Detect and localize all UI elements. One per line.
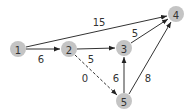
svg-text:1: 1 [15, 45, 21, 56]
weight-5-3: 6 [113, 73, 119, 84]
weight-1-2: 6 [38, 54, 44, 65]
node-1: 1 [10, 41, 26, 57]
node-3: 3 [116, 40, 132, 56]
edge-2-3 [77, 48, 115, 49]
weight-2-5: 0 [82, 73, 88, 84]
weight-2-3: 5 [88, 54, 94, 65]
svg-text:4: 4 [173, 10, 179, 21]
svg-text:2: 2 [66, 45, 72, 56]
svg-text:3: 3 [121, 44, 127, 55]
directed-graph: 6 15 5 0 5 6 8 1 2 3 4 5 [0, 0, 190, 110]
node-2: 2 [61, 41, 77, 57]
node-4: 4 [168, 6, 184, 22]
weight-5-4: 8 [145, 73, 151, 84]
weight-3-4: 5 [132, 28, 138, 39]
node-5: 5 [116, 93, 132, 109]
weight-1-4: 15 [93, 17, 106, 28]
svg-text:5: 5 [121, 97, 127, 108]
